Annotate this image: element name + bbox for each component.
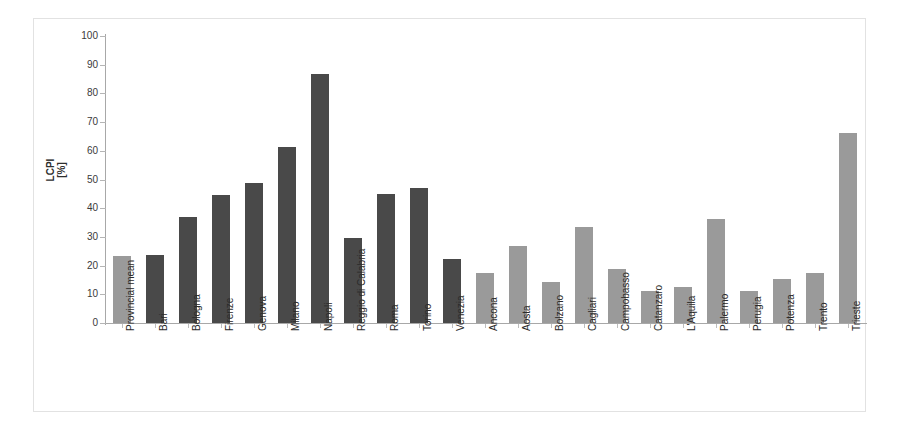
x-axis-tick-label: Ancona bbox=[489, 297, 499, 331]
x-axis-tick-label: Palermo bbox=[720, 294, 730, 331]
y-axis-tick-label: 80 bbox=[58, 88, 98, 98]
y-axis-tick-label-holder: 10 bbox=[50, 294, 98, 295]
y-axis-tick-label: 30 bbox=[58, 232, 98, 242]
x-axis-tick bbox=[155, 324, 156, 328]
x-axis-tick-label: Perugia bbox=[753, 297, 763, 331]
y-axis-tick bbox=[100, 323, 106, 324]
x-axis-tick-label: Provincial mean bbox=[126, 260, 136, 331]
x-axis-tick-label: Potenza bbox=[786, 294, 796, 331]
y-axis-tick-label-holder: 80 bbox=[50, 93, 98, 94]
x-axis-tick-label: Venezia bbox=[456, 295, 466, 331]
y-axis-tick-label-holder: 50 bbox=[50, 180, 98, 181]
x-axis-tick bbox=[749, 324, 750, 328]
x-axis-tick bbox=[353, 324, 354, 328]
x-axis-tick bbox=[551, 324, 552, 328]
x-axis-tick bbox=[452, 324, 453, 328]
y-axis-tick-label-holder: 40 bbox=[50, 208, 98, 209]
y-axis-tick-label-holder: 90 bbox=[50, 65, 98, 66]
y-axis-tick-label: 50 bbox=[58, 175, 98, 185]
bar bbox=[839, 133, 857, 323]
x-axis-tick bbox=[848, 324, 849, 328]
y-axis-tick-label: 100 bbox=[58, 31, 98, 41]
bar bbox=[311, 74, 329, 323]
y-axis-tick-label: 90 bbox=[58, 60, 98, 70]
y-axis-tick-label: 70 bbox=[58, 117, 98, 127]
y-axis-tick-label-holder: 70 bbox=[50, 122, 98, 123]
x-axis-tick-label: Aosta bbox=[522, 305, 532, 331]
x-axis-tick bbox=[320, 324, 321, 328]
x-axis-tick bbox=[254, 324, 255, 328]
plot-area bbox=[105, 36, 865, 323]
y-axis-tick-label-holder: 20 bbox=[50, 266, 98, 267]
x-axis-tick bbox=[683, 324, 684, 328]
x-axis-tick bbox=[221, 324, 222, 328]
y-axis-tick-label-holder: 0 bbox=[50, 323, 98, 324]
x-axis-tick bbox=[716, 324, 717, 328]
x-axis-tick bbox=[815, 324, 816, 328]
x-axis-tick bbox=[782, 324, 783, 328]
y-axis-tick-label-holder: 100 bbox=[50, 36, 98, 37]
x-axis-tick-label: Trento bbox=[819, 302, 829, 331]
x-axis-tick-label: Torino bbox=[423, 304, 433, 331]
y-axis-tick-label: 40 bbox=[58, 203, 98, 213]
y-axis-tick-label: 10 bbox=[58, 289, 98, 299]
x-axis-tick-label: Catanzaro bbox=[654, 285, 664, 331]
x-axis-tick bbox=[485, 324, 486, 328]
x-axis-tick bbox=[122, 324, 123, 328]
x-axis-tick-label: Roma bbox=[390, 304, 400, 331]
x-axis-tick-label: Campobasso bbox=[621, 272, 631, 331]
x-axis-tick bbox=[386, 324, 387, 328]
y-axis-tick-label-holder: 60 bbox=[50, 151, 98, 152]
x-axis-tick-label: Cagliari bbox=[588, 297, 598, 331]
x-axis-tick-label: Firenze bbox=[225, 298, 235, 331]
x-axis-tick bbox=[617, 324, 618, 328]
x-axis-tick bbox=[188, 324, 189, 328]
x-axis-tick-label: Bari bbox=[159, 313, 169, 331]
x-axis-tick bbox=[584, 324, 585, 328]
x-axis-tick bbox=[518, 324, 519, 328]
x-axis-tick bbox=[287, 324, 288, 328]
x-axis-tick-label: L'Aquila bbox=[687, 296, 697, 331]
x-axis-tick-label: Milano bbox=[291, 302, 301, 331]
x-axis-tick bbox=[419, 324, 420, 328]
x-axis-tick-label: Bolzano bbox=[555, 295, 565, 331]
y-axis-tick-label: 60 bbox=[58, 146, 98, 156]
figure-frame: LCPI [%] 1009080706050403020100 Provinci… bbox=[33, 18, 866, 412]
x-axis-tick-label: Genova bbox=[258, 296, 268, 331]
x-axis-tick bbox=[650, 324, 651, 328]
y-axis-tick-label: 0 bbox=[58, 318, 98, 328]
bar bbox=[278, 147, 296, 323]
x-axis-tick-label: Bologna bbox=[192, 294, 202, 331]
y-axis-tick-label: 20 bbox=[58, 261, 98, 271]
x-axis-tick-label: Napoli bbox=[324, 303, 334, 331]
x-axis-tick-label: Trieste bbox=[852, 301, 862, 331]
y-axis-tick-label-holder: 30 bbox=[50, 237, 98, 238]
x-axis-tick-label: Reggio di Calabria bbox=[357, 249, 367, 331]
